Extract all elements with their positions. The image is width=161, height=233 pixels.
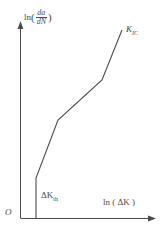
y-axis-label-open-paren: ( xyxy=(31,12,35,23)
threshold-subscript: th xyxy=(53,196,58,202)
fracture-toughness-label: KIC xyxy=(126,25,138,36)
x-axis-label-text: ln ( ΔK ) xyxy=(103,197,135,207)
fatigue-crack-growth-figure: ln ( da dN ) KIC ΔKth ln ( ΔK ) O xyxy=(0,0,161,233)
fraction-denominator: dN xyxy=(36,17,47,26)
x-axis-label: ln ( ΔK ) xyxy=(103,198,135,207)
da-dn-fraction: da dN xyxy=(36,9,47,27)
y-axis-label-close-paren: ) xyxy=(48,12,52,23)
y-axis-label: ln ( da dN ) xyxy=(24,9,52,27)
threshold-label: ΔKth xyxy=(41,191,58,202)
fraction-numerator: da xyxy=(36,9,46,17)
threshold-symbol: ΔK xyxy=(41,190,53,200)
y-axis-label-prefix: ln xyxy=(24,13,31,22)
x-axis-arrowhead xyxy=(148,216,156,222)
origin-label: O xyxy=(5,208,12,217)
fracture-toughness-subscript: IC xyxy=(132,30,138,36)
y-axis xyxy=(18,21,24,218)
y-axis-arrowhead xyxy=(18,21,24,29)
x-axis xyxy=(21,216,157,222)
